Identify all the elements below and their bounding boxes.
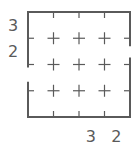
bottom-clues: 32	[86, 127, 122, 146]
grid-cell[interactable]	[79, 65, 105, 91]
bottom-clue: 3	[86, 127, 96, 146]
grid-cell[interactable]	[54, 12, 80, 38]
left-clues: 32	[8, 16, 18, 61]
grid-cell[interactable]	[79, 12, 105, 38]
grid-cell[interactable]	[28, 38, 54, 64]
left-clue: 2	[8, 42, 18, 61]
grid-cell[interactable]	[28, 91, 54, 117]
grid-cell[interactable]	[105, 38, 131, 64]
grid-cell[interactable]	[54, 91, 80, 117]
grid-cell[interactable]	[54, 65, 80, 91]
left-clue: 3	[8, 16, 18, 35]
grid-cell[interactable]	[54, 38, 80, 64]
bottom-clue: 2	[111, 127, 121, 146]
grid-cell[interactable]	[105, 91, 131, 117]
grid-cell[interactable]	[105, 12, 131, 38]
puzzle-board: 32 32	[0, 0, 140, 152]
grid-cell[interactable]	[28, 12, 54, 38]
grid-cell[interactable]	[28, 65, 54, 91]
grid-cells	[28, 12, 130, 117]
grid-cell[interactable]	[105, 65, 131, 91]
grid-cell[interactable]	[79, 91, 105, 117]
grid-cell[interactable]	[79, 38, 105, 64]
